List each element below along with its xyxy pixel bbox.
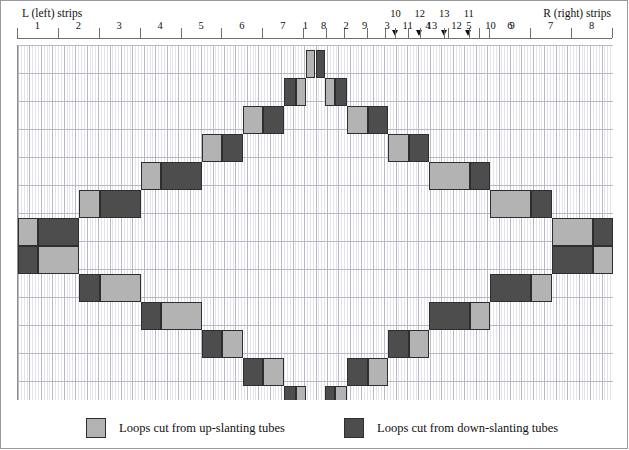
gridline-vertical <box>261 45 262 400</box>
loop-block-upper <box>202 134 222 162</box>
loop-block-lower <box>552 246 593 274</box>
gridline-horizontal <box>18 157 613 158</box>
gridline-vertical <box>307 45 308 400</box>
gridline-vertical <box>350 45 351 400</box>
gridline-vertical <box>456 45 457 400</box>
ruler-number: 4 <box>158 20 163 31</box>
ruler-number: 5 <box>466 20 471 31</box>
gridline-vertical <box>187 45 188 400</box>
gridline-vertical <box>172 45 173 400</box>
ruler-number: 11 <box>464 8 474 19</box>
gridline-vertical <box>533 45 534 400</box>
gridline-vertical <box>459 45 460 400</box>
ruler-number: 6 <box>239 20 244 31</box>
loop-block-upper <box>18 218 38 246</box>
gridline-vertical <box>519 45 520 400</box>
gridline-vertical <box>527 45 528 400</box>
ruler-tick <box>181 28 182 38</box>
gridline-vertical <box>164 45 165 400</box>
gridline-vertical <box>138 45 139 400</box>
gridline-vertical <box>267 45 268 400</box>
gridline-vertical <box>198 45 199 400</box>
loop-block-upper <box>141 162 161 190</box>
loop-block-upper <box>325 78 335 106</box>
gridline-vertical <box>496 45 497 400</box>
loop-block-upper <box>593 218 613 246</box>
gridline-vertical <box>539 45 540 400</box>
legend-swatch-down-slanting <box>344 418 364 438</box>
ruler-tick <box>140 28 141 38</box>
ruler-number: 2 <box>344 20 349 31</box>
gridline-vertical <box>275 45 276 400</box>
gridline-vertical <box>115 45 116 400</box>
gridline-vertical <box>516 45 517 400</box>
gridline-vertical <box>447 45 448 400</box>
gridline-vertical <box>510 45 511 400</box>
ruler-tick <box>444 28 445 38</box>
loop-layout-chart <box>17 45 613 400</box>
gridline-horizontal <box>18 45 613 46</box>
ruler-tick <box>612 28 613 38</box>
loop-block-upper <box>243 106 263 134</box>
gridline-vertical <box>504 45 505 400</box>
ruler-number: 10 <box>485 20 496 31</box>
gridline-vertical <box>127 45 128 400</box>
ruler-tick <box>571 28 572 38</box>
gridline-vertical <box>536 45 537 400</box>
loop-block-lower <box>38 246 79 274</box>
gridline-vertical <box>493 45 494 400</box>
gridline-vertical <box>547 45 548 400</box>
loop-block-upper <box>38 218 79 246</box>
gridline-vertical <box>190 45 191 400</box>
legend-label-up-slanting: Loops cut from up-slanting tubes <box>119 421 285 436</box>
legend-item-up-slanting: Loops cut from up-slanting tubes <box>86 418 285 438</box>
gridline-vertical <box>436 45 437 400</box>
gridline-vertical <box>178 45 179 400</box>
loop-block-upper <box>263 106 283 134</box>
loop-block-upper <box>531 190 551 218</box>
gridline-vertical <box>444 45 445 400</box>
gridline-vertical <box>107 45 108 400</box>
right-strips-label: R (right) strips <box>543 7 611 19</box>
ruler-number: 6 <box>507 20 512 31</box>
ruler-tick <box>530 28 531 38</box>
ruler-tick <box>420 28 421 38</box>
ruler-number: 1 <box>35 20 40 31</box>
gridline-vertical <box>473 45 474 400</box>
gridline-vertical <box>92 45 93 400</box>
gridline-vertical <box>258 45 259 400</box>
loop-block-lower <box>409 330 429 358</box>
gridline-vertical <box>513 45 514 400</box>
gridline-vertical <box>273 45 274 400</box>
gridline-vertical <box>95 45 96 400</box>
gridline-horizontal <box>18 325 613 326</box>
gridline-vertical <box>467 45 468 400</box>
gridline-vertical <box>441 45 442 400</box>
gridline-vertical <box>453 45 454 400</box>
gridline-vertical <box>384 45 385 400</box>
gridline-vertical <box>118 45 119 400</box>
gridline-vertical <box>470 45 471 400</box>
gridline-vertical <box>270 45 271 400</box>
ruler-number: 7 <box>280 20 285 31</box>
gridline-vertical <box>158 45 159 400</box>
gridline-vertical <box>490 45 491 400</box>
loop-block-lower <box>18 246 38 274</box>
loop-block-lower <box>296 386 306 400</box>
loop-block-upper <box>284 78 296 106</box>
gridline-vertical <box>112 45 113 400</box>
loop-block-lower <box>531 274 551 302</box>
legend: Loops cut from up-slanting tubes Loops c… <box>0 418 629 450</box>
ruler-number: 4 <box>425 20 430 31</box>
gridline-vertical <box>247 45 248 400</box>
loop-block-lower <box>347 358 367 386</box>
gridline-vertical <box>316 45 317 400</box>
gridline-vertical <box>464 45 465 400</box>
loop-block-upper <box>100 190 141 218</box>
gridline-vertical <box>353 45 354 400</box>
gridline-vertical <box>439 45 440 400</box>
gridline-vertical <box>135 45 136 400</box>
loop-block-upper <box>347 106 367 134</box>
gridline-vertical <box>281 45 282 400</box>
ruler-number: 3 <box>117 20 122 31</box>
